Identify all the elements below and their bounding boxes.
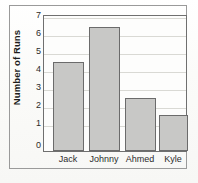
y-tick-label: 1 xyxy=(29,119,41,128)
y-tick-label: 7 xyxy=(29,11,41,20)
y-tick-label: 2 xyxy=(29,101,41,110)
y-axis-tick-labels: 7 6 5 4 3 2 1 0 xyxy=(28,15,41,152)
y-tick-label: 0 xyxy=(29,141,41,150)
bar-jack xyxy=(53,62,84,151)
y-tick-label: 6 xyxy=(29,29,41,38)
bar-ahmed xyxy=(125,98,156,151)
plot-area xyxy=(43,15,187,152)
x-tick-label-kyle: Kyle xyxy=(155,154,191,165)
y-axis-title: Number of Runs xyxy=(11,23,22,113)
y-tick-label: 4 xyxy=(29,65,41,74)
bars xyxy=(44,16,186,151)
y-tick-label: 5 xyxy=(29,47,41,56)
bar-chart-screenshot: Number of Runs 7 6 5 4 3 2 1 0 Jack John… xyxy=(0,0,198,183)
bar-kyle xyxy=(159,115,188,151)
y-tick-label: 3 xyxy=(29,83,41,92)
x-axis-tick-labels: Jack Johnny Ahmed Kyle xyxy=(43,154,187,168)
bar-johnny xyxy=(89,27,120,151)
